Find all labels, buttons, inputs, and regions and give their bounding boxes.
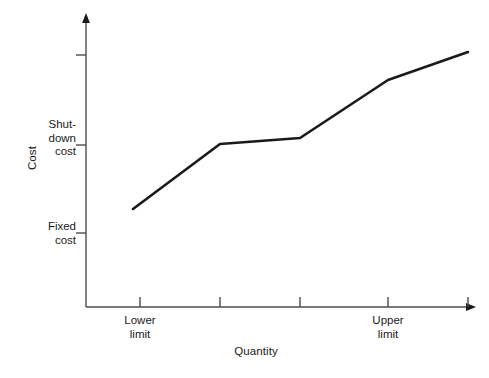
x-tick-label-lower-line2: limit [100,328,180,342]
x-tick-label-lower-line1: Lower [100,314,180,328]
y-tick-label-shutdown-line1: Shut- [14,118,76,132]
x-axis-title: Quantity [196,345,316,357]
y-tick-label-fixed-line2: cost [14,234,76,248]
y-tick-label-shutdown-line3: cost [14,145,76,159]
x-tick-label-lower-limit: Lower limit [100,314,180,341]
cost-curve-line [133,52,468,209]
y-tick-label-fixed-line1: Fixed [14,220,76,234]
x-tick-label-upper-limit: Upper limit [348,314,428,341]
y-tick-label-fixed-cost: Fixed cost [14,220,76,247]
y-axis-arrowhead-icon [82,13,90,23]
y-axis-ticks [76,55,86,233]
x-tick-label-upper-line2: limit [348,328,428,342]
x-axis [86,303,476,311]
y-tick-label-shutdown-cost: Shut- down cost [14,118,76,159]
x-tick-label-upper-line1: Upper [348,314,428,328]
x-axis-ticks [140,297,468,307]
cost-quantity-chart: Cost Quantity Shut- down cost Fixed cost… [0,0,489,378]
y-axis [82,13,90,307]
y-tick-label-shutdown-line2: down [14,132,76,146]
